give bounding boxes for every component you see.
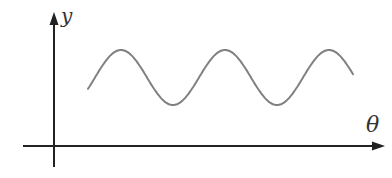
theta-axis-label: θ [366,112,379,137]
y-axis-label: y [61,4,72,28]
sine-curve [88,50,353,105]
y-axis-arrowhead-icon [50,12,59,25]
sine-plot [0,0,392,178]
x-axis-arrowhead-icon [372,142,385,151]
